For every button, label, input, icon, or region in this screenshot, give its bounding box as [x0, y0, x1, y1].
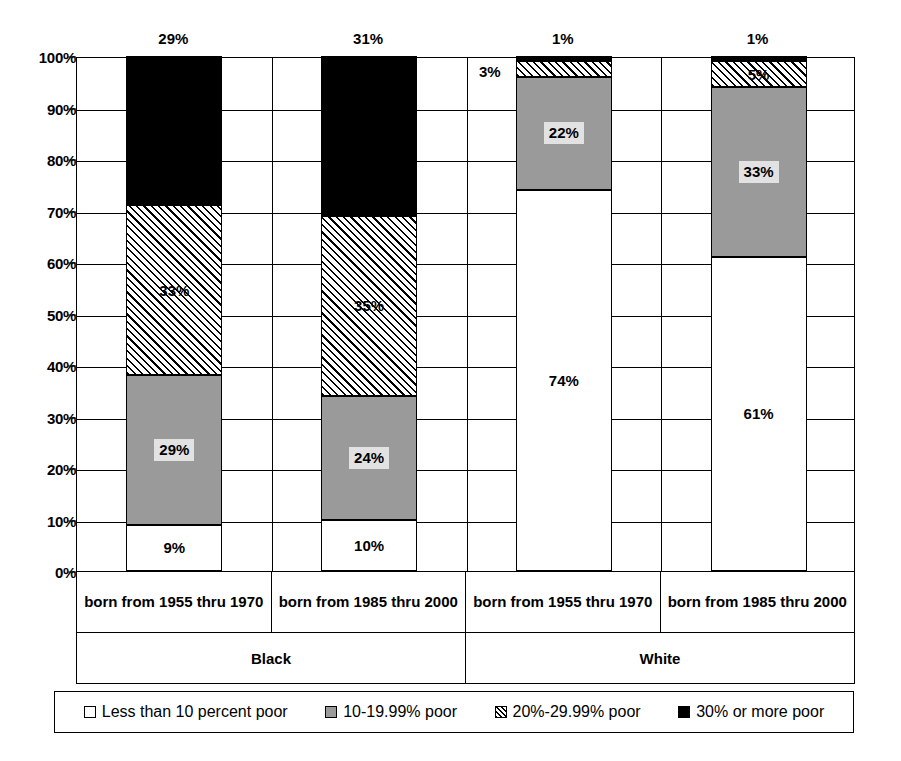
bar-segment-label: 9% [164, 540, 186, 555]
y-axis-tick-mark [68, 211, 76, 212]
y-axis-tick-label: 100% [14, 49, 76, 66]
bar-segment[interactable] [127, 56, 221, 205]
y-axis-tick-mark [68, 108, 76, 109]
legend-swatch-icon [678, 706, 690, 718]
category-separator [661, 58, 662, 571]
y-axis-tick-label: 20% [14, 461, 76, 478]
bar-segment-label: 61% [744, 406, 774, 421]
category-separator [272, 58, 273, 571]
bar-segment[interactable]: 9% [127, 525, 221, 571]
bar-segment-label: 22% [544, 122, 584, 144]
legend-item[interactable]: 20%-29.99% poor [495, 703, 641, 721]
category-label: born from 1985 thru 2000 [272, 572, 467, 633]
y-axis-tick-mark [68, 314, 76, 315]
bar-segment[interactable]: 61% [712, 257, 806, 571]
y-axis-tick-mark [68, 417, 76, 418]
legend: Less than 10 percent poor10-19.99% poor2… [54, 691, 854, 733]
bar-segment[interactable]: 24% [322, 396, 416, 520]
category-row-periods: born from 1955 thru 1970born from 1985 t… [76, 572, 855, 633]
bar-segment[interactable]: 29% [127, 375, 221, 524]
y-axis-tick-mark [68, 57, 76, 58]
bar-segment-label: 5% [748, 67, 770, 82]
y-axis-tick-label: 0% [14, 564, 76, 581]
bar-top-label: 29% [158, 30, 188, 47]
y-axis-tick-label: 70% [14, 203, 76, 220]
bar-segment[interactable] [322, 56, 416, 216]
bar-segment-label: 35% [354, 298, 384, 313]
bar-segment[interactable] [517, 61, 611, 76]
legend-swatch-icon [495, 706, 507, 718]
legend-item[interactable]: 10-19.99% poor [325, 703, 457, 721]
y-axis-tick-mark [68, 572, 76, 573]
legend-label: 20%-29.99% poor [513, 703, 641, 721]
group-label: Black [76, 633, 466, 684]
y-axis-tick-label: 50% [14, 306, 76, 323]
y-axis-tick-mark [68, 469, 76, 470]
y-axis-tick-mark [68, 366, 76, 367]
category-label: born from 1955 thru 1970 [76, 572, 272, 633]
bar-segment-label: 24% [349, 447, 389, 469]
bar-segment[interactable]: 33% [127, 205, 221, 375]
y-axis-tick-label: 30% [14, 409, 76, 426]
bar-segment-label: 33% [159, 283, 189, 298]
bar-segment[interactable]: 22% [517, 77, 611, 190]
bar-top-label: 1% [552, 30, 574, 47]
category-label: born from 1955 thru 1970 [466, 572, 661, 633]
y-axis-tick-label: 10% [14, 512, 76, 529]
legend-swatch-icon [84, 706, 96, 718]
bar-top-label: 31% [353, 30, 383, 47]
bar-segment-label: 74% [549, 373, 579, 388]
group-label: White [466, 633, 855, 684]
category-axis: born from 1955 thru 1970born from 1985 t… [76, 572, 855, 684]
bar-column[interactable]: 9%29%33% [126, 56, 222, 571]
y-axis-tick-label: 60% [14, 255, 76, 272]
y-axis-tick-mark [68, 520, 76, 521]
legend-label: 10-19.99% poor [343, 703, 457, 721]
bar-segment[interactable]: 74% [517, 190, 611, 571]
legend-item[interactable]: 30% or more poor [678, 703, 824, 721]
bar-segment[interactable]: 10% [322, 520, 416, 572]
y-axis-tick-label: 40% [14, 358, 76, 375]
legend-item[interactable]: Less than 10 percent poor [84, 703, 288, 721]
bar-segment-label: 33% [739, 161, 779, 183]
bar-column[interactable]: 10%24%35% [321, 56, 417, 571]
legend-label: 30% or more poor [696, 703, 824, 721]
y-axis: 100%90%80%70%60%50%40%30%20%10%0% [0, 0, 76, 761]
bar-segment-label: 29% [154, 439, 194, 461]
bar-segment-outside-label: 3% [479, 63, 501, 80]
category-row-groups: BlackWhite [76, 633, 855, 684]
y-axis-tick-label: 90% [14, 100, 76, 117]
y-axis-tick-mark [68, 263, 76, 264]
plot-area: 9%29%33%10%24%35%74%22%61%33%5% [76, 57, 855, 572]
bar-segment-label: 10% [354, 538, 384, 553]
bar-segment[interactable]: 33% [712, 87, 806, 257]
bar-column[interactable]: 74%22% [516, 56, 612, 571]
category-separator [467, 58, 468, 571]
category-label: born from 1985 thru 2000 [661, 572, 856, 633]
legend-swatch-icon [325, 706, 337, 718]
bar-segment[interactable] [712, 56, 806, 61]
bar-segment[interactable] [517, 56, 611, 61]
y-axis-tick-label: 80% [14, 152, 76, 169]
bar-segment[interactable]: 5% [712, 61, 806, 87]
bar-top-label: 1% [747, 30, 769, 47]
bar-segment[interactable]: 35% [322, 216, 416, 396]
bar-column[interactable]: 61%33%5% [711, 56, 807, 571]
y-axis-tick-mark [68, 160, 76, 161]
legend-label: Less than 10 percent poor [102, 703, 288, 721]
stacked-bar-chart: 100%90%80%70%60%50%40%30%20%10%0% 9%29%3… [0, 0, 901, 761]
